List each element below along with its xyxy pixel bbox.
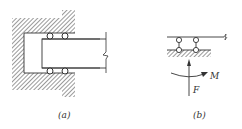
roller-bottom-left	[47, 68, 53, 74]
panel-b: F M (b)	[167, 34, 227, 120]
force-arrowhead-icon	[187, 59, 191, 66]
moment-arc	[171, 73, 204, 77]
figure-canvas: (a) F M (b)	[0, 0, 242, 129]
link-top-left	[176, 37, 181, 42]
break-line-b	[224, 34, 227, 40]
roller-top-right	[62, 33, 68, 39]
caption-a: (a)	[58, 110, 71, 120]
moment-label: M	[209, 71, 220, 81]
link-bottom-left	[176, 47, 181, 52]
panel-a: (a)	[12, 10, 108, 120]
caption-b: (b)	[193, 110, 206, 120]
roller-top-left	[47, 33, 53, 39]
link-top-right	[193, 37, 198, 42]
roller-bottom-right	[62, 68, 68, 74]
beam-a	[42, 39, 106, 68]
force-label: F	[192, 85, 200, 95]
link-bottom-right	[193, 47, 198, 52]
moment-arrowhead-icon	[201, 72, 208, 77]
ground-hatch	[167, 50, 211, 57]
